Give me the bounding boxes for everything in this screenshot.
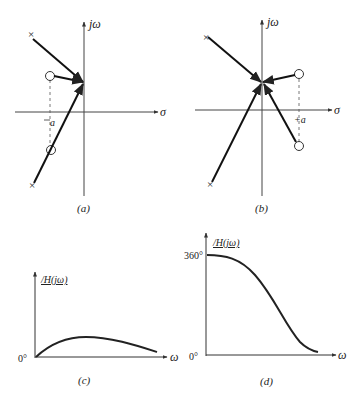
zero-location-label: a (50, 117, 55, 128)
jw-axis-label: jω (87, 17, 101, 31)
zero-upper-marker (295, 70, 304, 79)
panel-a-caption: (a) (77, 202, 90, 215)
panel-b: jω σ × × +a (b) (195, 15, 341, 215)
y-axis-label: /H(jω) (212, 237, 240, 249)
vector-from-lower-pole (34, 84, 83, 183)
sigma-axis-label: σ (334, 103, 341, 117)
x-axis-label: ω (338, 348, 346, 362)
pole-upper-marker: × (28, 28, 34, 40)
panel-c-caption: (c) (78, 374, 91, 387)
jw-axis-label: jω (265, 15, 279, 29)
phase-curve (36, 337, 157, 357)
y-top-label: 360° (184, 250, 203, 261)
panel-c: /H(jω) ω 0° (c) (18, 272, 178, 387)
sigma-axis-label: σ (160, 105, 167, 119)
vector-from-lower-pole (212, 84, 261, 182)
vector-from-lower-zero (264, 84, 296, 142)
y-axis-label: /H(jω) (40, 274, 68, 286)
zero-lower-marker (295, 142, 304, 151)
x-axis-label: ω (170, 350, 178, 364)
panel-b-caption: (b) (255, 202, 268, 215)
figure: jω σ × × a (a) jω σ × × +a (b) / (0, 0, 362, 404)
y-origin-label: 0° (189, 351, 198, 362)
panel-d-caption: (d) (260, 375, 273, 388)
panel-a: jω σ × × a (a) (15, 17, 167, 215)
vector-from-upper-pole (208, 37, 261, 82)
panel-d: /H(jω) ω 360° 0° (d) (184, 233, 346, 388)
vector-from-upper-pole (33, 39, 83, 82)
y-origin-label: 0° (18, 353, 27, 364)
vector-from-upper-zero (263, 75, 295, 82)
phase-curve (207, 255, 318, 352)
zero-upper-marker (46, 72, 55, 81)
zero-location-label: +a (294, 114, 306, 125)
